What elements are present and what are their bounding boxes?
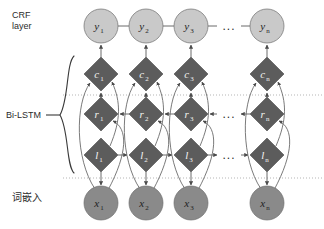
node-shape-circle (250, 9, 284, 43)
node-shape-circle (250, 186, 284, 220)
ellipsis-right-lstm: ... (222, 107, 235, 121)
crf-layer-label: CRF layer (12, 10, 32, 32)
node-shape-diamond (84, 97, 118, 131)
diagram-canvas: y1y2y3ync1c2c3cnr1r2r3rnl1l2l3lnx1x2x3xn… (0, 0, 324, 229)
node-subscript: n (266, 75, 270, 83)
node-subscript: 2 (144, 156, 148, 164)
node-shape-diamond (250, 97, 284, 131)
node-shape-diamond (250, 138, 284, 172)
ellipsis-left-lstm: ... (222, 148, 235, 162)
node-x3: x3 (174, 186, 208, 220)
node-subscript: 2 (145, 27, 149, 35)
node-subscript: 2 (145, 204, 149, 212)
node-y3: y3 (174, 9, 208, 43)
node-r2: r2 (129, 97, 163, 131)
node-l2: l2 (129, 138, 163, 172)
node-subscript: 3 (190, 27, 194, 35)
node-r3: r3 (174, 97, 208, 131)
node-subscript: n (266, 204, 270, 212)
node-shape-diamond (129, 97, 163, 131)
node-shape-circle (84, 186, 118, 220)
node-subscript: 2 (145, 115, 149, 123)
nodes: y1y2y3ync1c2c3cnr1r2r3rnl1l2l3lnx1x2x3xn (84, 9, 284, 220)
node-l3: l3 (174, 138, 208, 172)
curve-x-to-c-2 (169, 83, 185, 189)
node-cn: cn (250, 57, 284, 91)
node-shape-diamond (129, 57, 163, 91)
bilstm-brace (46, 56, 74, 173)
bilstm-crf-diagram: y1y2y3ync1c2c3cnr1r2r3rnl1l2l3lnx1x2x3xn… (0, 0, 324, 229)
node-shape-circle (84, 9, 118, 43)
brace-path (60, 56, 74, 173)
node-x1: x1 (84, 186, 118, 220)
node-r1: r1 (84, 97, 118, 131)
node-subscript: n (266, 27, 270, 35)
node-shape-diamond (250, 57, 284, 91)
curve-x-to-c-1 (124, 83, 140, 189)
node-shape-diamond (84, 57, 118, 91)
node-shape-circle (174, 9, 208, 43)
ellipsis-crf: ... (222, 19, 235, 33)
node-subscript: 2 (145, 75, 149, 83)
node-subscript: 1 (100, 75, 104, 83)
node-shape-diamond (129, 138, 163, 172)
node-subscript: 1 (100, 115, 104, 123)
node-shape-circle (174, 186, 208, 220)
node-l1: l1 (84, 138, 118, 172)
node-rn: rn (250, 97, 284, 131)
row-ellipses: ......... (222, 19, 235, 162)
node-subscript: 3 (190, 115, 194, 123)
node-subscript: 3 (190, 204, 194, 212)
bilstm-layer-label: Bi-LSTM (6, 110, 41, 121)
node-subscript: 3 (189, 156, 193, 164)
node-shape-diamond (174, 97, 208, 131)
node-subscript: 1 (100, 27, 104, 35)
node-subscript: 1 (100, 204, 104, 212)
node-y1: y1 (84, 9, 118, 43)
node-x2: x2 (129, 186, 163, 220)
node-shape-circle (129, 9, 163, 43)
node-subscript: n (265, 156, 269, 164)
node-y2: y2 (129, 9, 163, 43)
node-shape-diamond (174, 138, 208, 172)
word-embedding-label: 词嵌入 (12, 192, 42, 203)
skip-connection-curves (79, 82, 289, 190)
node-subscript: 1 (99, 156, 103, 164)
node-xn: xn (250, 186, 284, 220)
node-shape-circle (129, 186, 163, 220)
node-shape-diamond (84, 138, 118, 172)
node-shape-diamond (174, 57, 208, 91)
node-subscript: 3 (190, 75, 194, 83)
curve-x-to-c-0 (79, 83, 95, 189)
node-ln: ln (250, 138, 284, 172)
node-c1: c1 (84, 57, 118, 91)
node-c3: c3 (174, 57, 208, 91)
node-yn: yn (250, 9, 284, 43)
curve-x-to-c-3 (245, 83, 261, 189)
node-subscript: n (266, 115, 270, 123)
node-c2: c2 (129, 57, 163, 91)
